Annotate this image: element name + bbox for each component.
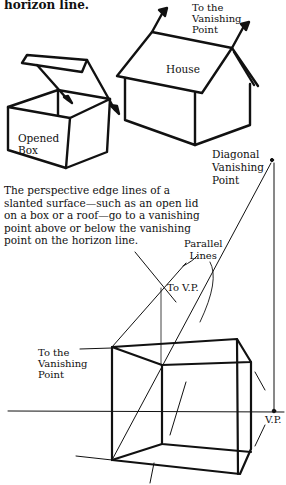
label-house-vanishing-point: To the Vanishing Point [192, 2, 242, 35]
label-house: House [166, 63, 200, 75]
label-vp: V.P. [265, 414, 282, 426]
label-parallel-lines: Parallel Lines [184, 238, 223, 262]
page-top-fragment: horizon line. [4, 0, 89, 11]
label-opened-box: Opened Box [18, 132, 59, 156]
label-diagonal-vanishing-point: Diagonal Vanishing Point [212, 148, 264, 187]
label-left-vanishing-point: To the Vanishing Point [38, 347, 88, 380]
body-paragraph: The perspective edge lines of a slanted … [4, 184, 204, 247]
label-to-vp: To V.P. [167, 282, 199, 294]
